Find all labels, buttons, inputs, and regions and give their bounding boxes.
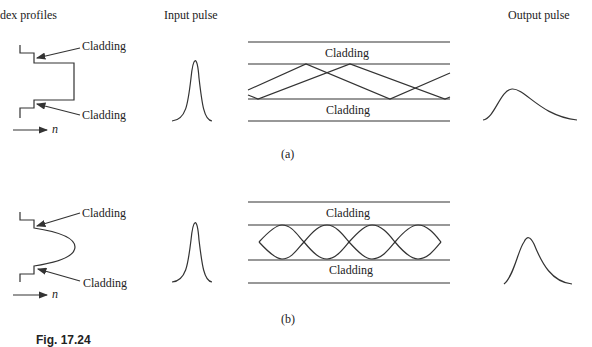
output-pulse-a	[483, 89, 577, 120]
cladding-arrow-top-a	[37, 48, 80, 58]
cladding-label-top-b: Cladding	[82, 206, 126, 220]
cladding-label-bottom-a: Cladding	[82, 108, 126, 122]
input-pulse-header: Input pulse	[164, 8, 218, 22]
ray-1	[248, 64, 450, 99]
cladding-label-bottom-b: Cladding	[83, 276, 127, 290]
figure-caption: Fig. 17.24	[36, 333, 91, 347]
input-pulse-b	[172, 223, 212, 282]
output-pulse-header: Output pulse	[508, 8, 570, 22]
cladding-arrow-bottom-a	[37, 104, 80, 115]
waveguide-cladding-bottom-b: Cladding	[329, 263, 373, 277]
waveguide-cladding-top-a: Cladding	[325, 46, 369, 60]
output-pulse-b	[504, 238, 572, 284]
cladding-arrow-top-b	[37, 213, 80, 226]
panel-label-b: (b)	[281, 312, 295, 326]
sinusoidal-ray-1	[259, 225, 441, 242]
input-pulse-a	[172, 61, 212, 121]
cladding-arrow-bottom-b	[38, 269, 80, 281]
sinusoidal-ray-2	[259, 242, 441, 259]
waveguide-cladding-bottom-a: Cladding	[326, 103, 370, 117]
panel-label-a: (a)	[281, 147, 294, 161]
index-profiles-header: dex profiles	[0, 8, 57, 22]
cladding-label-top-a: Cladding	[82, 39, 126, 53]
n-label-b: n	[52, 287, 58, 301]
waveguide-cladding-top-b: Cladding	[326, 206, 370, 220]
n-label-a: n	[52, 122, 58, 136]
